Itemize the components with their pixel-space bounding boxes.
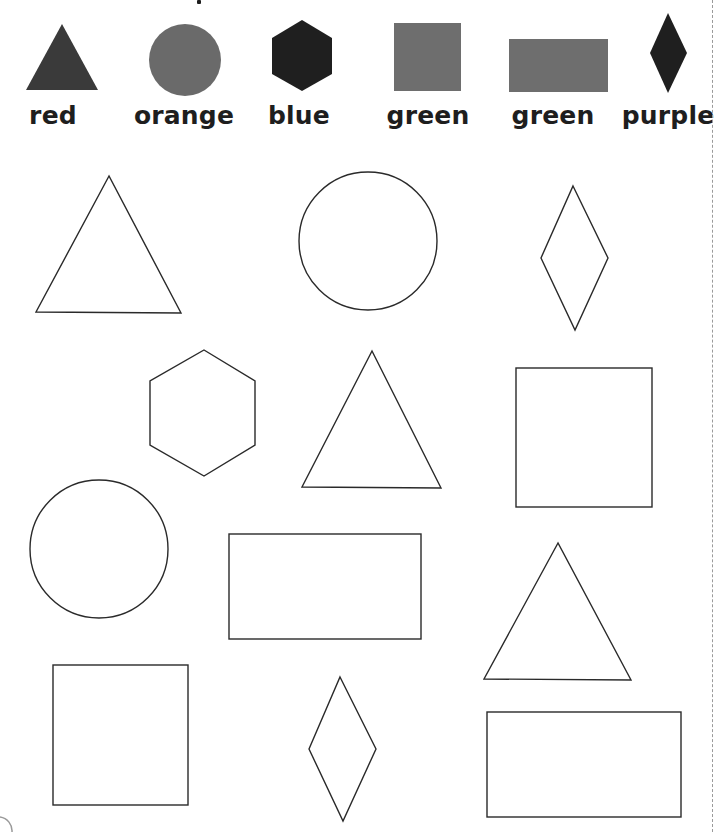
outline-circle-2 [299, 172, 437, 310]
key-label-green-square: green [387, 100, 470, 132]
outline-rectangle-12 [487, 712, 681, 817]
outline-rhombus-3 [541, 186, 608, 330]
key-label-red: red [29, 100, 77, 132]
key-label-purple: purple [622, 100, 715, 132]
outline-square-10 [53, 665, 188, 805]
worksheet-canvas [0, 0, 720, 832]
key-square-green-swatch [394, 23, 461, 91]
key-rhombus-purple-swatch [650, 13, 687, 93]
outline-triangle-5 [302, 351, 441, 488]
outline-hexagon-4 [150, 350, 255, 476]
shapes-to-color [30, 172, 681, 821]
outline-circle-7 [30, 480, 168, 618]
key-hexagon-blue-swatch [272, 20, 332, 91]
outline-rhombus-11 [309, 677, 376, 821]
outline-triangle-1 [36, 176, 181, 313]
color-key [26, 13, 687, 96]
corner-circle-fragment [0, 817, 12, 832]
key-label-orange: orange [134, 100, 234, 132]
outline-rectangle-8 [229, 534, 421, 639]
key-rectangle-green-swatch [509, 39, 608, 92]
outline-square-6 [516, 368, 652, 507]
key-label-green-rectangle: green [512, 100, 595, 132]
dashed-cut-line [712, 0, 713, 832]
shape-coloring-worksheet: red orange blue green green purple [0, 0, 720, 832]
key-triangle-red-swatch [26, 24, 98, 90]
key-circle-orange-swatch [149, 24, 221, 96]
outline-triangle-9 [484, 543, 631, 680]
key-label-blue: blue [268, 100, 330, 132]
